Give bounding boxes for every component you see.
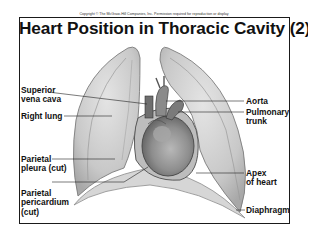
label-line: vena cava — [21, 95, 61, 104]
label-superior-vena-cava: Superior vena cava — [21, 86, 61, 105]
label-line: Aorta — [246, 97, 268, 106]
label-diaphragm: Diaphragm — [246, 206, 290, 215]
label-line: of heart — [246, 178, 277, 187]
label-line: Diaphragm — [246, 206, 290, 215]
label-line: pleura (cut) — [21, 164, 67, 173]
label-parietal-pleura: Parietal pleura (cut) — [21, 155, 67, 174]
superior-vena-cava-shape — [145, 96, 153, 118]
label-pulmonary-trunk: Pulmonary trunk — [246, 108, 289, 127]
label-aorta: Aorta — [246, 97, 268, 106]
label-line: Right lung — [21, 112, 62, 121]
label-apex-of-heart: Apex of heart — [246, 169, 277, 188]
label-line: trunk — [246, 117, 289, 126]
heart-shape — [142, 116, 194, 176]
label-parietal-pericardium: Parietal pericardium (cut) — [21, 189, 69, 217]
label-line: (cut) — [21, 208, 69, 217]
label-right-lung: Right lung — [21, 112, 62, 121]
